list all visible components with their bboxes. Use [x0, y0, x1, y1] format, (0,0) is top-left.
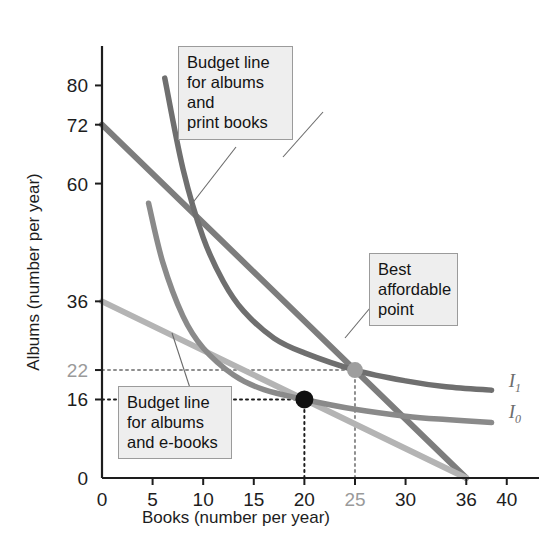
callout-line: and e-books	[127, 432, 223, 452]
x-tick-label: 25	[344, 489, 365, 510]
callout-budget-print-books: Budget line for albums and print books	[178, 46, 293, 140]
y-tick-label: 16	[67, 389, 88, 410]
callout-line: affordable	[378, 279, 449, 299]
leader-budget-print	[191, 147, 236, 205]
callout-line: Budget line	[187, 52, 284, 72]
x-tick-label: 20	[294, 489, 315, 510]
callout-line: for albums	[127, 412, 223, 432]
x-tick-label: 5	[147, 489, 158, 510]
callout-line: print books	[187, 112, 284, 132]
y-tick-label: 36	[67, 291, 88, 312]
x-tick-label: 40	[496, 489, 517, 510]
y-tick-label: 60	[67, 174, 88, 195]
x-tick-label: 10	[193, 489, 214, 510]
x-tick-label: 15	[243, 489, 264, 510]
callout-line: point	[378, 299, 449, 319]
x-axis-title: Books (number per year)	[142, 508, 330, 527]
x-tick-label: 36	[456, 489, 477, 510]
x-tick-label: 0	[97, 489, 108, 510]
best-affordable-point-ebooks	[295, 390, 313, 408]
y-tick-label: 80	[67, 75, 88, 96]
curve-labels-group: I1I0	[508, 370, 521, 426]
y-axis-title: Albums (number per year)	[24, 173, 43, 370]
curve-label-I0: I0	[508, 401, 521, 426]
callout-line: for albums and	[187, 72, 284, 112]
callout-line: Best	[378, 259, 449, 279]
callout-line: Budget line	[127, 392, 223, 412]
curve-label-I1: I1	[508, 370, 521, 395]
budget-line-indifference-curve-figure: 80726036221600510152025303640 I1I0 Books…	[0, 0, 547, 551]
y-tick-label: 22	[67, 360, 88, 381]
y-tick-label: 72	[67, 115, 88, 136]
best-affordable-point-print	[347, 362, 363, 378]
callout-budget-ebooks: Budget line for albums and e-books	[118, 386, 232, 459]
x-tick-label: 30	[395, 489, 416, 510]
data-point-markers	[295, 362, 363, 408]
y-tick-label: 0	[77, 468, 88, 489]
callout-best-affordable-point: Best affordable point	[369, 253, 458, 326]
